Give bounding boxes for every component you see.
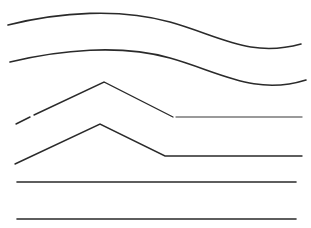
angled-line-1-peak [34,82,173,117]
angled-line-2 [15,124,302,164]
angled-line-1 [16,82,302,124]
wave-line-1 [8,13,301,48]
line-diagram [0,0,311,228]
wave-line-2 [10,50,306,85]
angled-line-1-stub [16,117,30,124]
